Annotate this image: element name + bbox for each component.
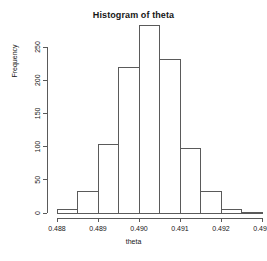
- y-tick-label: 150: [34, 107, 41, 119]
- x-tick-label: 0.489: [89, 225, 107, 232]
- histogram-bar: [139, 25, 160, 213]
- histogram-plot: Histogram of theta 050100150200250 0.488…: [0, 0, 267, 261]
- plot-canvas: 050100150200250 0.4880.4890.4900.4910.49…: [0, 0, 267, 261]
- x-axis: 0.4880.4890.4900.4910.4920.493: [48, 218, 267, 232]
- x-tick-label: 0.491: [171, 225, 189, 232]
- histogram-bar: [119, 68, 140, 213]
- histogram-bar: [98, 145, 119, 213]
- y-axis: 050100150200250: [34, 41, 47, 215]
- x-tick-label: 0.488: [48, 225, 66, 232]
- histogram-bar: [242, 212, 263, 213]
- y-axis-label: Frequency: [11, 26, 18, 96]
- histogram-bar: [57, 210, 78, 213]
- x-tick-label: 0.493: [253, 225, 267, 232]
- y-tick-label: 100: [34, 141, 41, 153]
- histogram-bar: [201, 192, 222, 213]
- y-tick-label: 0: [34, 211, 41, 215]
- histogram-bar: [180, 149, 201, 213]
- histogram-bar: [160, 60, 181, 213]
- x-tick-label: 0.490: [130, 225, 148, 232]
- y-tick-label: 250: [34, 41, 41, 53]
- x-axis-label: theta: [0, 238, 267, 245]
- x-tick-label: 0.492: [212, 225, 230, 232]
- histogram-bar: [221, 210, 242, 213]
- histogram-bars: [57, 25, 262, 213]
- y-tick-label: 200: [34, 74, 41, 86]
- y-tick-label: 50: [34, 176, 41, 184]
- histogram-bar: [78, 192, 99, 213]
